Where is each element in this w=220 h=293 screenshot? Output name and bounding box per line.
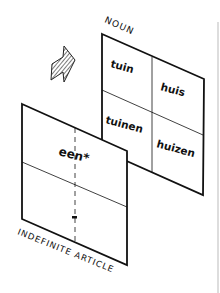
article-cell-dash	[72, 216, 77, 219]
grammar-diagram: NOUN tuin huis tuinen huizen een* INDEFI…	[0, 0, 220, 293]
noun-label: NOUN	[103, 15, 136, 37]
hatched-arrow-icon	[51, 46, 75, 82]
